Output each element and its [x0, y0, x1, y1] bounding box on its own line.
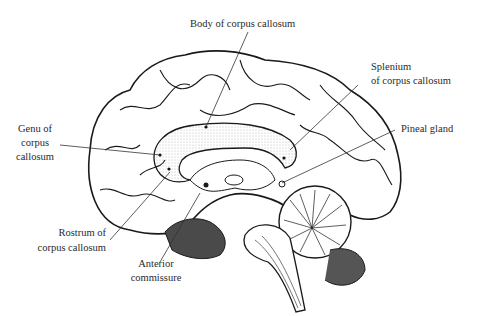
label-genu-line3: callosum: [10, 150, 60, 164]
brain-illustration: [0, 0, 482, 316]
label-rostrum-line2: corpus callosum: [20, 241, 106, 255]
label-genu-line2: corpus: [10, 136, 60, 150]
label-anterior-line1: Anterior: [122, 257, 190, 271]
label-anterior-line2: commissure: [122, 271, 190, 285]
label-genu-line1: Genu of: [10, 122, 60, 136]
label-rostrum-line1: Rostrum of: [20, 226, 106, 240]
brain-diagram: Body of corpus callosum Splenium of corp…: [0, 0, 482, 316]
label-splenium-line1: Splenium: [371, 60, 411, 74]
label-body-of-corpus-callosum: Body of corpus callosum: [190, 17, 295, 31]
label-pineal-gland: Pineal gland: [401, 122, 453, 136]
temporal-underside: [165, 219, 225, 259]
label-splenium-line2: of corpus callosum: [371, 74, 451, 88]
